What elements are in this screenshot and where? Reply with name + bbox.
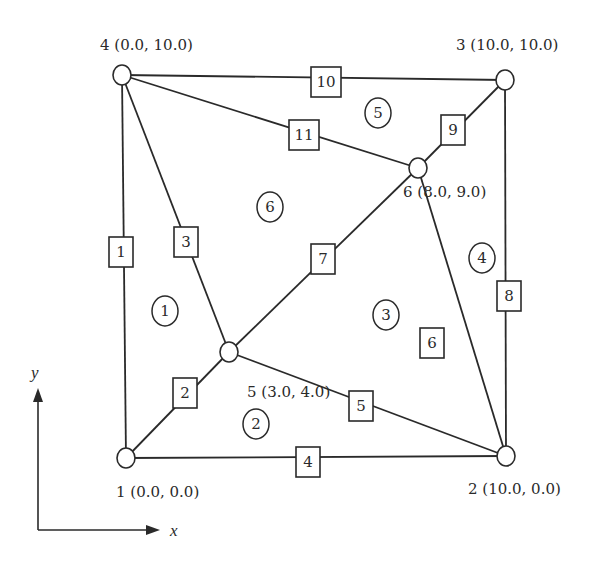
element-label-4: 4 bbox=[469, 243, 495, 273]
y-axis-arrow-icon bbox=[33, 388, 43, 402]
node-1 bbox=[117, 448, 135, 468]
node-2 bbox=[497, 446, 515, 466]
edge-label-4: 4 bbox=[296, 447, 320, 477]
x-axis-arrow-icon bbox=[146, 525, 160, 535]
edge-number: 8 bbox=[504, 287, 514, 305]
element-number: 3 bbox=[381, 306, 391, 324]
node-6 bbox=[409, 158, 427, 178]
edge-number: 9 bbox=[448, 121, 458, 139]
node-5 bbox=[220, 342, 238, 362]
edge-label-5: 5 bbox=[349, 391, 373, 421]
edge-label-2: 2 bbox=[173, 378, 197, 408]
element-label-2: 2 bbox=[243, 409, 269, 439]
element-label-1: 1 bbox=[152, 296, 178, 326]
edge-number: 1 bbox=[116, 243, 126, 261]
edge-label-3: 3 bbox=[174, 227, 198, 257]
edge-number: 3 bbox=[181, 233, 191, 251]
edge-label-6: 6 bbox=[420, 328, 444, 358]
node-3 bbox=[496, 70, 514, 90]
edge-line-6 bbox=[418, 168, 506, 456]
element-label-5: 5 bbox=[365, 98, 391, 128]
edge-number: 2 bbox=[180, 384, 190, 402]
edge-number: 6 bbox=[427, 334, 437, 352]
node-label-5: 5 (3.0, 4.0) bbox=[247, 383, 330, 401]
edge-label-11: 11 bbox=[289, 120, 319, 150]
element-number: 1 bbox=[160, 302, 170, 320]
node-label-2: 2 (10.0, 0.0) bbox=[468, 480, 561, 498]
node-4 bbox=[113, 65, 131, 85]
edge-line-8 bbox=[505, 80, 506, 456]
element-label-3: 3 bbox=[373, 300, 399, 330]
edge-label-1: 1 bbox=[109, 237, 133, 267]
edge-number: 5 bbox=[356, 397, 366, 415]
edge-number: 11 bbox=[294, 126, 313, 144]
node-label-6: 6 (8.0, 9.0) bbox=[403, 183, 486, 201]
mesh-diagram: 1234567891011 123456 1 (0.0, 0.0)2 (10.0… bbox=[0, 0, 600, 561]
edge-label-7: 7 bbox=[311, 244, 335, 274]
edge-labels-layer: 1234567891011 bbox=[109, 67, 521, 477]
edge-label-9: 9 bbox=[441, 115, 465, 145]
node-label-1: 1 (0.0, 0.0) bbox=[116, 483, 199, 501]
element-number: 5 bbox=[373, 104, 383, 122]
element-number: 4 bbox=[477, 249, 487, 267]
edge-label-10: 10 bbox=[311, 67, 341, 97]
edge-number: 7 bbox=[318, 250, 328, 268]
element-label-6: 6 bbox=[257, 192, 283, 222]
edge-number: 10 bbox=[316, 73, 335, 91]
edge-label-8: 8 bbox=[497, 281, 521, 311]
element-number: 6 bbox=[265, 198, 275, 216]
coordinate-axes: y x bbox=[29, 363, 178, 540]
element-number: 2 bbox=[251, 415, 261, 433]
x-axis-label: x bbox=[169, 521, 178, 540]
node-label-4: 4 (0.0, 10.0) bbox=[100, 36, 193, 54]
y-axis-label: y bbox=[29, 363, 39, 382]
edge-number: 4 bbox=[303, 453, 313, 471]
node-label-3: 3 (10.0, 10.0) bbox=[456, 36, 558, 54]
